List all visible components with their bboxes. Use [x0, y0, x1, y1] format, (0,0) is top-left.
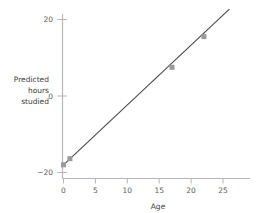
y-axis-title-line-1: Predicted [14, 75, 49, 84]
x-tick-label-20: 20 [186, 186, 196, 195]
scatter-regression-plot: 20 0 −20 0 5 10 15 20 25 Age Predicted h… [0, 0, 257, 213]
y-axis-title-line-2: hours [28, 86, 49, 95]
x-tick-label-10: 10 [123, 186, 133, 195]
data-point-marker [170, 65, 175, 70]
x-tick-label-15: 15 [154, 186, 164, 195]
plot-background [0, 0, 257, 213]
y-tick-label-minus20: −20 [37, 168, 53, 177]
x-axis-title: Age [151, 202, 166, 211]
chart-figure: 20 0 −20 0 5 10 15 20 25 Age Predicted h… [0, 0, 257, 213]
data-point-marker [67, 156, 72, 161]
y-axis-title-line-3: studied [21, 97, 49, 106]
x-tick-label-5: 5 [93, 186, 98, 195]
x-tick-label-25: 25 [218, 186, 228, 195]
x-tick-label-0: 0 [61, 186, 66, 195]
data-point-marker [201, 34, 206, 39]
data-point-marker [61, 162, 66, 167]
y-tick-label-20: 20 [43, 15, 53, 24]
